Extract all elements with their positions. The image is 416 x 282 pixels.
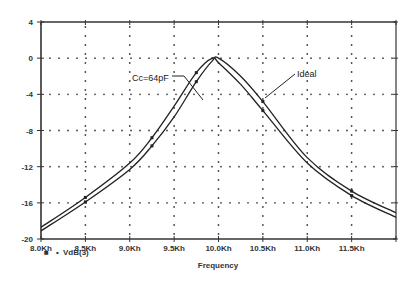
tick-labels: 40-4-8-12-16-208.0Kh8.5Kh9.0Kh9.5Kh10.0K… [21, 18, 364, 253]
annotation-ideal: Ideal [297, 69, 317, 79]
y-tick-label: 4 [29, 18, 34, 27]
data-marker [261, 109, 264, 112]
data-marker [350, 194, 353, 197]
legend-bullet-icon: • [56, 248, 59, 257]
data-marker [195, 71, 198, 74]
data-marker [150, 144, 153, 147]
frequency-response-chart: 40-4-8-12-16-208.0Kh8.5Kh9.0Kh9.5Kh10.0K… [0, 0, 416, 282]
legend-entry: VdB(3) [63, 248, 89, 257]
x-tick-label: 9.0Kh [119, 244, 141, 253]
annotations: Cc=64pFIdeal [132, 69, 317, 100]
data-marker [150, 136, 153, 139]
x-tick-label: 10.0Kh [205, 244, 231, 253]
data-marker [84, 196, 87, 199]
annotation-cc64pf: Cc=64pF [132, 73, 169, 83]
axes [37, 20, 398, 242]
data-marker [84, 200, 87, 203]
x-axis-title: Frequency [198, 261, 239, 270]
legend-marker-icon: ■ [44, 248, 49, 257]
x-tick-label: 11.0Kh [294, 244, 320, 253]
y-tick-label: -12 [21, 163, 33, 172]
grid [49, 26, 393, 235]
y-tick-label: -8 [26, 127, 34, 136]
x-tick-label: 11.5Kh [339, 244, 365, 253]
x-tick-label: 9.5Kh [163, 244, 185, 253]
y-tick-label: 0 [29, 54, 34, 63]
y-tick-label: -16 [21, 199, 33, 208]
y-tick-label: -4 [26, 90, 34, 99]
y-tick-label: -20 [21, 235, 33, 244]
series-line-0 [41, 58, 396, 228]
data-marker [261, 100, 264, 103]
x-tick-label: 10.5Kh [250, 244, 276, 253]
data-marker [350, 190, 353, 193]
data-marker [195, 80, 198, 83]
